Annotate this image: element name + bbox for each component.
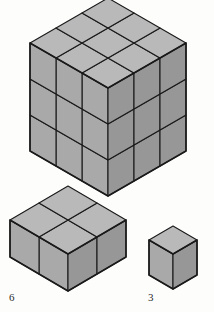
solids-layer bbox=[10, 0, 197, 291]
unit-cube bbox=[149, 226, 197, 289]
label-6: 6 bbox=[9, 291, 15, 303]
figure-container: 63 bbox=[0, 0, 214, 312]
isometric-cube-figure: 63 bbox=[0, 0, 214, 312]
label-3: 3 bbox=[148, 291, 154, 303]
